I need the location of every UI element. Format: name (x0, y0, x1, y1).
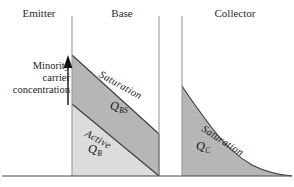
region-title-collector: Collector (196, 7, 274, 19)
charge-label-qbs: QBS (110, 99, 127, 114)
y-axis-label: Minority carrier concentration (2, 60, 70, 97)
charge-symbol-qc: Q (196, 139, 205, 153)
saturation-collector-area (182, 86, 292, 176)
charge-subscript-qbs: BS (119, 106, 127, 115)
charge-subscript-qc: C (205, 146, 210, 155)
charge-subscript-qb: B (97, 149, 102, 158)
charge-label-qc: QC (196, 139, 210, 154)
charge-symbol-qbs: Q (110, 99, 119, 113)
y-axis-label-line2: carrier (2, 72, 70, 84)
region-title-base: Base (96, 7, 148, 19)
charge-label-qb: QB (88, 142, 102, 157)
y-axis-label-line3: concentration (2, 84, 70, 96)
charge-symbol-qb: Q (88, 142, 97, 156)
region-title-emitter: Emitter (8, 7, 70, 19)
bjt-carrier-concentration-figure: Emitter Base Collector Minority carrier … (0, 0, 294, 187)
y-axis-label-line1: Minority (2, 60, 70, 72)
